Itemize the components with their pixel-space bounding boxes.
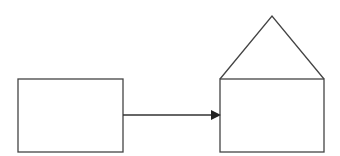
house-body bbox=[220, 79, 324, 152]
diagram-canvas bbox=[0, 0, 340, 156]
house-roof bbox=[220, 16, 324, 79]
house-shape bbox=[220, 16, 324, 152]
source-rectangle bbox=[18, 79, 123, 152]
